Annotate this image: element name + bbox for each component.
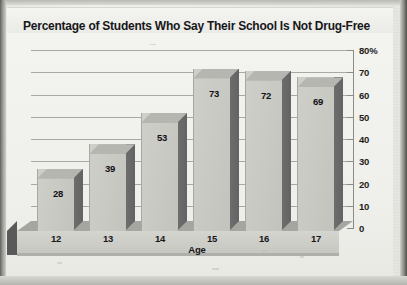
x-axis-label: 16 bbox=[241, 233, 287, 244]
y-axis-tick bbox=[347, 117, 354, 118]
y-axis-label: 10 bbox=[359, 200, 369, 211]
bar-value-label: 72 bbox=[248, 90, 284, 101]
y-axis-label: 70 bbox=[359, 67, 369, 78]
y-axis-tick bbox=[347, 95, 354, 96]
x-axis-label: 17 bbox=[293, 233, 339, 244]
scan-edge-right bbox=[400, 0, 407, 285]
y-axis-label: 80% bbox=[359, 45, 377, 56]
bar-value-label: 28 bbox=[40, 188, 76, 199]
bar-value-label: 39 bbox=[92, 163, 128, 174]
x-axis-title: Age bbox=[157, 244, 237, 255]
gridline bbox=[31, 50, 353, 51]
y-axis-label: 50 bbox=[359, 111, 369, 122]
scan-speck bbox=[150, 44, 156, 45]
scan-edge-top bbox=[0, 0, 407, 5]
x-axis-label: 12 bbox=[33, 233, 79, 244]
y-axis-label: 0 bbox=[359, 223, 364, 234]
y-axis-tick bbox=[347, 228, 354, 229]
bar-value-label: 53 bbox=[144, 132, 180, 143]
y-axis-label: 40 bbox=[359, 134, 369, 145]
title-band: Percentage of Students Who Say Their Sch… bbox=[7, 7, 393, 34]
scan-speck bbox=[57, 262, 62, 264]
y-axis-tick bbox=[347, 206, 354, 207]
bar-side-face bbox=[73, 169, 83, 231]
bar-side-face bbox=[177, 113, 187, 231]
y-axis-label: 20 bbox=[359, 178, 369, 189]
base-slab-left bbox=[7, 221, 18, 255]
scan-speck bbox=[212, 268, 219, 270]
chart-screenshot: Percentage of Students Who Say Their Sch… bbox=[0, 0, 407, 285]
x-axis-label: 14 bbox=[137, 233, 183, 244]
bar-front-face bbox=[89, 144, 126, 231]
y-axis-tick bbox=[347, 50, 354, 51]
y-axis-tick bbox=[347, 139, 354, 140]
y-axis-tick bbox=[347, 161, 354, 162]
chart-title: Percentage of Students Who Say Their Sch… bbox=[23, 19, 370, 33]
scan-speck bbox=[262, 250, 267, 252]
gridline bbox=[31, 72, 353, 73]
plot-inner: Age 01020304050607080%281239135314731572… bbox=[7, 33, 393, 276]
scan-edge-left bbox=[0, 0, 6, 285]
y-axis-label: 60 bbox=[359, 89, 369, 100]
bar-value-label: 69 bbox=[300, 96, 336, 107]
bar-front-face bbox=[141, 113, 178, 231]
bar-value-label: 73 bbox=[196, 88, 232, 99]
x-axis-label: 15 bbox=[189, 233, 235, 244]
x-axis-label: 13 bbox=[85, 233, 131, 244]
y-axis-tick bbox=[347, 184, 354, 185]
y-axis-tick bbox=[347, 72, 354, 73]
scan-speck bbox=[300, 256, 304, 258]
bar-side-face bbox=[125, 144, 135, 231]
plot-area: Age 01020304050607080%281239135314731572… bbox=[7, 33, 393, 276]
scan-edge-bottom bbox=[0, 276, 407, 285]
y-axis-label: 30 bbox=[359, 156, 369, 167]
